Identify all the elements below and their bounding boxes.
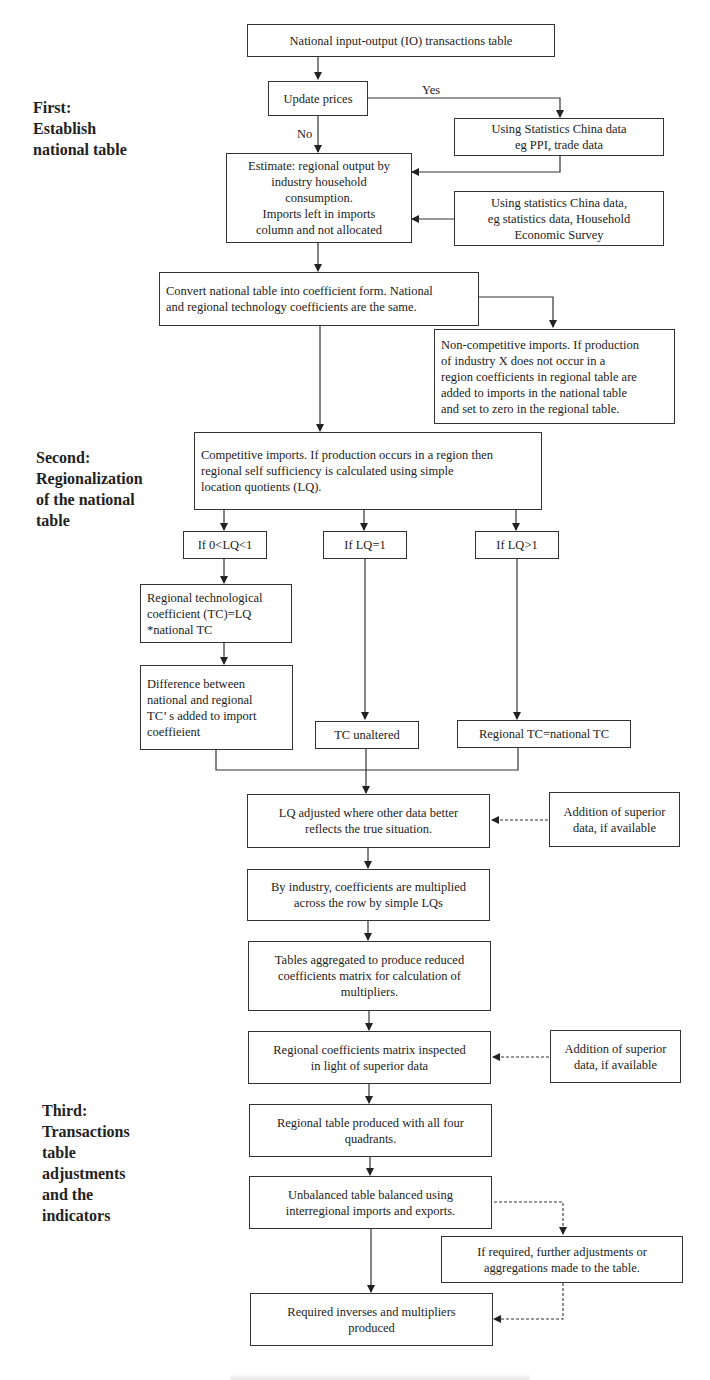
node-lq-equals-1: If LQ=1 (323, 531, 407, 559)
node-tables-aggregated: Tables aggregated to produce reduced coe… (248, 941, 491, 1011)
node-regional-tc-equals-national: Regional TC=national TC (457, 720, 631, 748)
node-estimate-regional-output: Estimate: regional output by industry ho… (226, 153, 412, 243)
node-statistics-household: Using statistics China data, eg statisti… (454, 191, 664, 246)
node-competitive-imports: Competitive imports. If production occur… (194, 432, 542, 510)
node-statistics-ppi: Using Statistics China data eg PPI, trad… (454, 118, 664, 156)
node-lq-between-0-1: If 0<LQ<1 (183, 531, 267, 559)
node-tc-unaltered: TC unaltered (315, 721, 419, 749)
edge-label-no: No (297, 127, 312, 142)
node-regional-matrix-inspected: Regional coefficients matrix inspected i… (248, 1031, 491, 1084)
node-unbalanced-table-balanced: Unbalanced table balanced using interreg… (249, 1176, 492, 1229)
node-regional-tc-formula: Regional technological coefficient (TC)=… (140, 584, 292, 643)
node-by-industry-multiplied: By industry, coefficients are multiplied… (247, 869, 490, 921)
node-convert-coefficient-form: Convert national table into coefficient … (159, 272, 479, 326)
node-superior-data-2: Addition of superior data, if available (550, 1030, 681, 1083)
node-superior-data-1: Addition of superior data, if available (549, 792, 680, 847)
node-difference-import-coefficient: Difference between national and regional… (140, 665, 293, 750)
node-non-competitive-imports: Non-competitive imports. If production o… (434, 329, 675, 424)
node-lq-greater-1: If LQ>1 (475, 531, 559, 559)
node-required-inverses-multipliers: Required inverses and multipliers produc… (250, 1293, 493, 1346)
cropped-caption-remnant (230, 1374, 530, 1380)
node-regional-table-four-quadrants: Regional table produced with all four qu… (249, 1104, 492, 1157)
node-update-prices: Update prices (268, 81, 368, 116)
edge-label-yes: Yes (422, 83, 440, 98)
node-lq-adjusted: LQ adjusted where other data better refl… (247, 794, 490, 848)
node-further-adjustments: If required, further adjustments or aggr… (441, 1236, 683, 1283)
node-national-io-table: National input-output (IO) transactions … (247, 24, 555, 57)
